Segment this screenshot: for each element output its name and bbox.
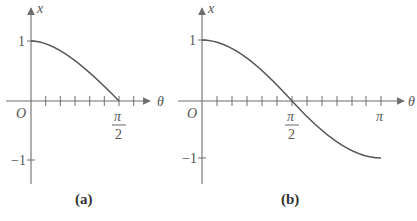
caption-b: (b) <box>281 191 299 208</box>
cos-curve-a <box>31 41 119 101</box>
y-tick-neg1-a: −1 <box>11 153 26 168</box>
x-tick-pi-over-2-b: π 2 <box>285 109 299 142</box>
x-label-b: x <box>207 1 215 16</box>
y-tick-neg1-b: −1 <box>182 151 197 166</box>
svg-text:π: π <box>114 109 122 124</box>
panel-b: x θ O 1 −1 π 2 π (b) <box>178 1 415 208</box>
theta-label-a: θ <box>157 94 164 109</box>
x-label-a: x <box>36 1 44 16</box>
origin-label-a: O <box>16 106 26 121</box>
svg-text:2: 2 <box>115 127 122 142</box>
theta-label-b: θ <box>408 94 415 109</box>
y-tick-1-a: 1 <box>18 34 25 49</box>
svg-text:2: 2 <box>288 127 295 142</box>
x-tick-pi-over-2-a: π 2 <box>112 109 126 142</box>
caption-a: (a) <box>75 191 93 208</box>
svg-text:π: π <box>287 109 295 124</box>
x-tick-pi-b: π <box>376 109 384 124</box>
y-tick-1-b: 1 <box>189 33 196 48</box>
panel-a: x θ O 1 −1 π 2 (a) <box>6 1 164 208</box>
origin-label-b: O <box>187 106 197 121</box>
figure: x θ O 1 −1 π 2 (a) <box>0 0 417 221</box>
